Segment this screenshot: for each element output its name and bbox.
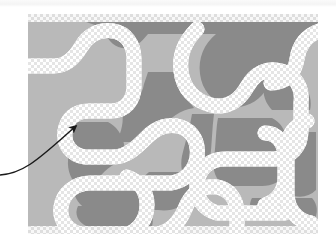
maze-mask-figure xyxy=(28,14,318,234)
figure-canvas xyxy=(28,14,318,234)
figure-screenshot xyxy=(0,0,336,247)
checkerboard-overlay xyxy=(28,14,318,234)
page-top-banner xyxy=(0,0,336,7)
